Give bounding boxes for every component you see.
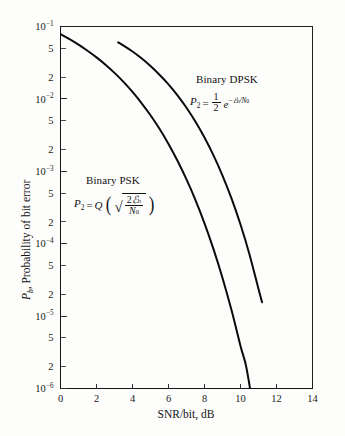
x-tick-label: 14 [307,393,318,404]
annotation-psk-label-text: Binary PSK [86,174,140,186]
psk-frac-den-sub: 0 [136,208,139,215]
x-tick-label: 6 [166,393,171,404]
x-tick-label: 0 [58,393,63,404]
dpsk-equals: = [202,97,208,109]
dpsk-p-sub: 2 [197,101,201,110]
y-tick-label-decade: 10−2 [35,92,54,104]
x-tick-label: 2 [94,393,99,404]
y-tick-label-decade: 10−4 [35,237,54,249]
y-axis-title-symbol: P [20,293,32,300]
y-tick-label-minor: 2 [48,72,53,83]
psk-q-function: Q [95,199,103,211]
chart-plot-area: 02468101214 10−15210−25210−35210−45210−5… [0,0,345,436]
dpsk-frac-denominator: 2 [212,103,221,113]
y-tick-label-decade: 10−1 [35,20,54,32]
annotation-psk-formula: P2 = Q ( √ 2ℰb N0 ) [74,193,155,216]
y-axis-title: Pb, Probability of bit error [20,180,35,300]
y-tick-label-minor: 5 [48,188,53,199]
y-axis-title-rest: , Probability of bit error [20,180,32,290]
psk-frac-denominator: N0 [127,206,141,216]
x-tick-labels: 02468101214 [58,393,319,404]
psk-fraction: 2ℰb N0 [125,195,143,216]
annotation-dpsk-formula: P2 = 1 2 e−ℰb/N0 [190,92,249,113]
annotation-dpsk-label-text: Binary DPSK [196,73,258,85]
annotation-dpsk-label: Binary DPSK [196,73,258,85]
y-tick-label-minor: 5 [48,332,53,343]
psk-equals: = [86,199,92,211]
y-tick-label-decade: 10−6 [35,382,54,394]
psk-radical-body: 2ℰb N0 [122,193,146,216]
x-tick-label: 12 [271,393,282,404]
y-tick-label-minor: 2 [48,289,53,300]
psk-paren-open: ( [105,196,111,214]
x-tick-label: 8 [202,393,207,404]
psk-p-symbol: P [74,197,81,209]
y-tick-label-decade: 10−5 [35,309,54,321]
y-tick-label-minor: 2 [48,361,53,372]
psk-p-sub: 2 [81,203,85,212]
psk-frac-num-energy-sub: b [138,197,141,204]
x-axis-title: SNR/bit, dB [158,408,215,421]
x-tick-label: 10 [235,393,246,404]
y-tick-label-minor: 5 [48,115,53,126]
y-tick-label-decade: 10−3 [35,165,54,177]
y-tick-label-minor: 5 [48,43,53,54]
psk-frac-den-symbol: N [129,205,136,216]
y-tick-label-minor: 5 [48,260,53,271]
annotation-psk-label: Binary PSK [86,174,140,186]
y-axis-title-symbol-sub: b [26,289,35,293]
x-tick-label: 4 [130,393,136,404]
dpsk-p-symbol: P [190,95,197,107]
psk-radical-symbol: √ [115,200,123,215]
dpsk-fraction: 1 2 [212,92,221,113]
ber-chart-figure: 02468101214 10−15210−25210−35210−45210−5… [0,0,345,436]
y-tick-label-minor: 2 [48,144,53,155]
psk-radical: √ 2ℰb N0 [115,193,146,216]
psk-paren-close: ) [149,196,155,214]
dpsk-exp-noise-sub: 0 [246,98,249,104]
y-tick-label-minor: 2 [48,217,53,228]
y-tick-labels: 10−15210−25210−35210−45210−55210−6 [35,20,54,394]
